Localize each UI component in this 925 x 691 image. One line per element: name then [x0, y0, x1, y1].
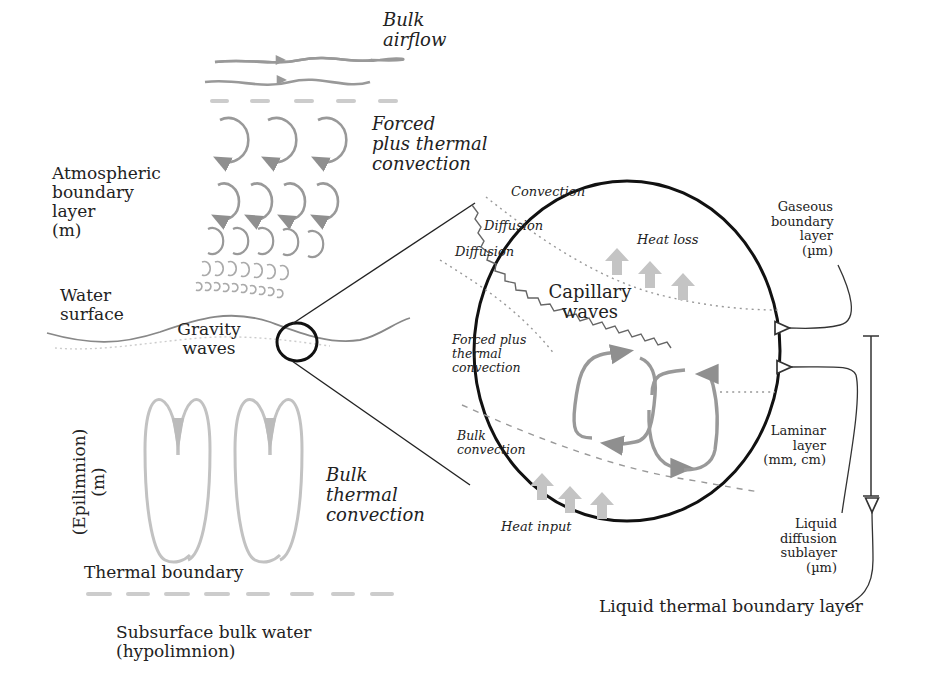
convection-down-arrows: [172, 418, 276, 453]
liquid-thermal-layer-pointer: [845, 511, 873, 607]
label-water-surface: Water surface: [60, 286, 110, 324]
inset-label-diffusion-upper: Diffusion: [484, 219, 543, 234]
small-eddies: [196, 262, 288, 298]
inset-label-heat-loss: Heat loss: [637, 233, 698, 248]
inset-label-bulk-convection: Bulk convection: [457, 429, 526, 457]
bulk-airflow-arrows: [205, 57, 403, 85]
bulk-thermal-convection-loops: [145, 399, 302, 562]
inset-label-heat-input: Heat input: [501, 520, 572, 535]
inset-label-convection: Convection: [511, 185, 585, 200]
zoom-line-upper: [292, 203, 475, 324]
atmospheric-eddies: [208, 118, 346, 257]
label-laminar-layer: Laminar layer (mm, cm): [760, 424, 826, 468]
label-gaseous-boundary-layer: Gaseous boundary layer (µm): [771, 200, 833, 258]
label-atmospheric-boundary-layer: Atmospheric boundary layer (m): [52, 164, 161, 240]
gaseous-layer-pointer: [788, 265, 851, 328]
label-thermal-boundary: Thermal boundary: [84, 563, 243, 582]
label-subsurface-bulk-water: Subsurface bulk water (hypolimnion): [116, 623, 311, 661]
label-liquid-thermal-boundary-layer: Liquid thermal boundary layer: [599, 597, 863, 616]
inset-label-diffusion-lower: Diffusion: [455, 245, 514, 260]
label-bulk-airflow: Bulk airflow: [383, 10, 446, 50]
label-bulk-thermal-convection: Bulk thermal convection: [326, 465, 425, 525]
magnifier-circle: [277, 323, 317, 361]
label-forced-thermal-convection-air: Forced plus thermal convection: [372, 114, 487, 174]
inset-label-forced-plus-thermal-convection: Forced plus thermal convection: [452, 333, 526, 375]
inset-label-capillary-waves: Capillary waves: [540, 282, 640, 322]
label-gravity-waves: Gravity waves: [174, 320, 244, 358]
label-epilimnion: (Epilimnion) (m): [70, 427, 108, 537]
label-liquid-diffusion-sublayer: Liquid diffusion sublayer (µm): [760, 517, 837, 575]
liquid-layer-range-bar: [863, 336, 879, 496]
